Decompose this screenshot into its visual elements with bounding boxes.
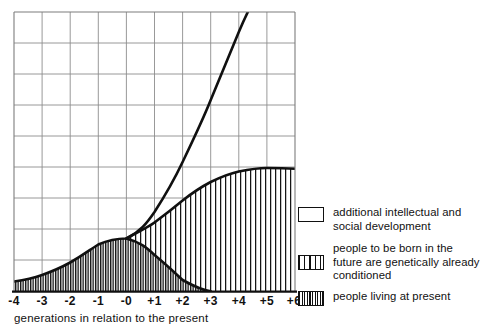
x-tick-label: +5 [260, 294, 274, 308]
x-tick-label: +2 [175, 294, 189, 308]
x-tick-label: -2 [65, 294, 76, 308]
x-axis-caption: generations in relation to the present [14, 312, 208, 324]
x-tick-label: +4 [232, 294, 246, 308]
legend-swatch-empty-box [298, 207, 324, 222]
x-tick-label: +3 [204, 294, 218, 308]
legend-item-present-generation: people living at present [298, 290, 486, 306]
x-tick-label: -3 [36, 294, 47, 308]
legend-label: people to be born in the future are gene… [333, 242, 483, 283]
x-tick-label: -0 [121, 294, 132, 308]
legend-label: people living at present [333, 290, 450, 304]
legend-item-future-generations: people to be born in the future are gene… [298, 242, 486, 283]
x-tick-label: -1 [93, 294, 104, 308]
x-tick-label: -4 [8, 294, 19, 308]
legend-item-additional-development: additional intellectual and social devel… [298, 206, 486, 233]
legend-label: additional intellectual and social devel… [333, 206, 483, 233]
legend-swatch-sparse-hatch-box [298, 255, 324, 270]
legend-swatch-dense-hatch-box [298, 291, 324, 306]
x-tick-label: +1 [147, 294, 161, 308]
chart-legend: additional intellectual and social devel… [298, 206, 486, 313]
generations-growth-figure: -4 -3 -2 -1 -0 +1 +2 +3 +4 +5 +6 generat… [0, 0, 489, 334]
